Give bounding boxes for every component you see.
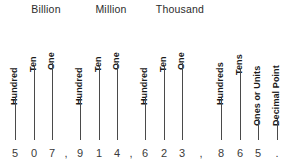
connector-line [99, 65, 100, 140]
digit: 2 [158, 147, 170, 160]
digit: 6 [234, 147, 246, 160]
connector-line [277, 119, 278, 140]
digit: 5 [9, 147, 21, 160]
connector-line [80, 98, 81, 140]
digit: 8 [215, 147, 227, 160]
digit: 4 [111, 147, 123, 160]
digit-separator: , [125, 147, 137, 160]
digit: 0 [28, 147, 40, 160]
digit: 6 [139, 147, 151, 160]
group-header: Million [78, 3, 144, 15]
connector-line [117, 63, 118, 140]
connector-line [145, 98, 146, 140]
connector-line [34, 65, 35, 140]
digit: 9 [74, 147, 86, 160]
group-header: Billion [13, 3, 79, 15]
group-header: Thousand [143, 3, 217, 15]
digit-separator: , [60, 147, 72, 160]
digit: 5 [252, 147, 264, 160]
connector-line [258, 119, 259, 140]
connector-line [52, 63, 53, 140]
digit: 1 [93, 147, 105, 160]
digit: 3 [176, 147, 188, 160]
place-value-chart: BillionMillionThousand HundredTenOneHund… [0, 0, 294, 162]
place-label: Decimal Point [272, 65, 281, 126]
digit: 7 [46, 147, 58, 160]
digit-separator: . [271, 147, 283, 160]
connector-line [182, 63, 183, 140]
connector-line [15, 98, 16, 140]
place-label: Ones or Units [253, 66, 262, 126]
connector-line [221, 98, 222, 140]
digit-separator: , [195, 147, 207, 160]
connector-line [240, 68, 241, 140]
connector-line [164, 65, 165, 140]
